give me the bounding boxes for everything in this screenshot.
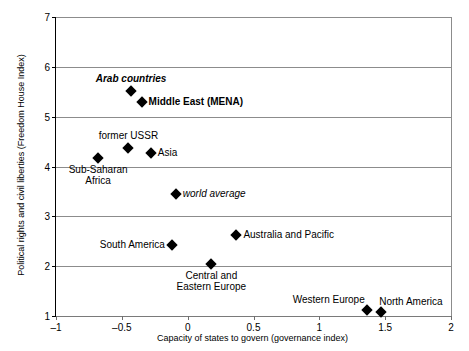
y-tick-mark: [52, 167, 56, 168]
x-tick-mark: [451, 316, 452, 320]
data-point-label: Central and Eastern Europe: [177, 270, 247, 293]
y-tick-mark: [52, 17, 56, 18]
diamond-marker-icon: [136, 96, 147, 107]
diamond-marker-icon: [166, 240, 177, 251]
gridline-y-2: [56, 266, 451, 267]
data-point-label: Australia and Pacific: [243, 229, 334, 241]
x-tick-mark: [188, 316, 189, 320]
y-tick-mark: [52, 117, 56, 118]
gridline-y-6: [56, 67, 451, 68]
data-point-label: Middle East (MENA): [149, 96, 243, 108]
plot-area: 1234567–1–0.500.511.52Arab countriesMidd…: [55, 17, 452, 316]
y-tick-mark: [52, 67, 56, 68]
y-tick-mark: [52, 216, 56, 217]
diamond-marker-icon: [92, 152, 103, 163]
y-tick-label: 3: [44, 211, 50, 222]
gridline-y-5: [56, 117, 451, 118]
y-tick-label: 1: [44, 311, 50, 322]
diamond-marker-icon: [170, 188, 181, 199]
data-point-label: former USSR: [99, 130, 158, 142]
x-tick-label: –0.5: [112, 322, 131, 333]
x-tick-mark: [385, 316, 386, 320]
x-tick-label: 0.5: [247, 322, 261, 333]
x-tick-mark: [254, 316, 255, 320]
data-point-label: Arab countries: [96, 73, 167, 85]
x-axis-title: Capacity of states to govern (governance…: [55, 333, 450, 343]
x-tick-label: –1: [50, 322, 61, 333]
diamond-marker-icon: [125, 85, 136, 96]
x-tick-mark: [319, 316, 320, 320]
data-point-label: Western Europe: [293, 294, 365, 306]
x-tick-label: 1.5: [378, 322, 392, 333]
diamond-marker-icon: [361, 304, 372, 315]
data-point-label: Asia: [158, 147, 177, 159]
y-tick-label: 2: [44, 261, 50, 272]
y-tick-label: 7: [44, 12, 50, 23]
y-tick-label: 6: [44, 61, 50, 72]
x-tick-mark: [122, 316, 123, 320]
x-tick-label: 0: [185, 322, 191, 333]
y-tick-mark: [52, 266, 56, 267]
diamond-marker-icon: [123, 142, 134, 153]
x-tick-mark: [56, 316, 57, 320]
diamond-marker-icon: [145, 147, 156, 158]
gridline-y-3: [56, 216, 451, 217]
data-point-label: North America: [379, 296, 442, 308]
y-axis-title: Political rights and civil liberties (Fr…: [16, 15, 26, 315]
gridline-y-7: [56, 17, 451, 18]
x-tick-label: 1: [317, 322, 323, 333]
diamond-marker-icon: [206, 258, 217, 269]
data-point-label: Sub-Saharan Africa: [69, 164, 128, 187]
y-tick-label: 5: [44, 111, 50, 122]
x-tick-label: 2: [448, 322, 454, 333]
data-point-label: South America: [100, 239, 165, 251]
data-point-label: world average: [183, 188, 246, 200]
scatter-chart: Political rights and civil liberties (Fr…: [0, 0, 469, 351]
diamond-marker-icon: [231, 230, 242, 241]
y-tick-label: 4: [44, 161, 50, 172]
